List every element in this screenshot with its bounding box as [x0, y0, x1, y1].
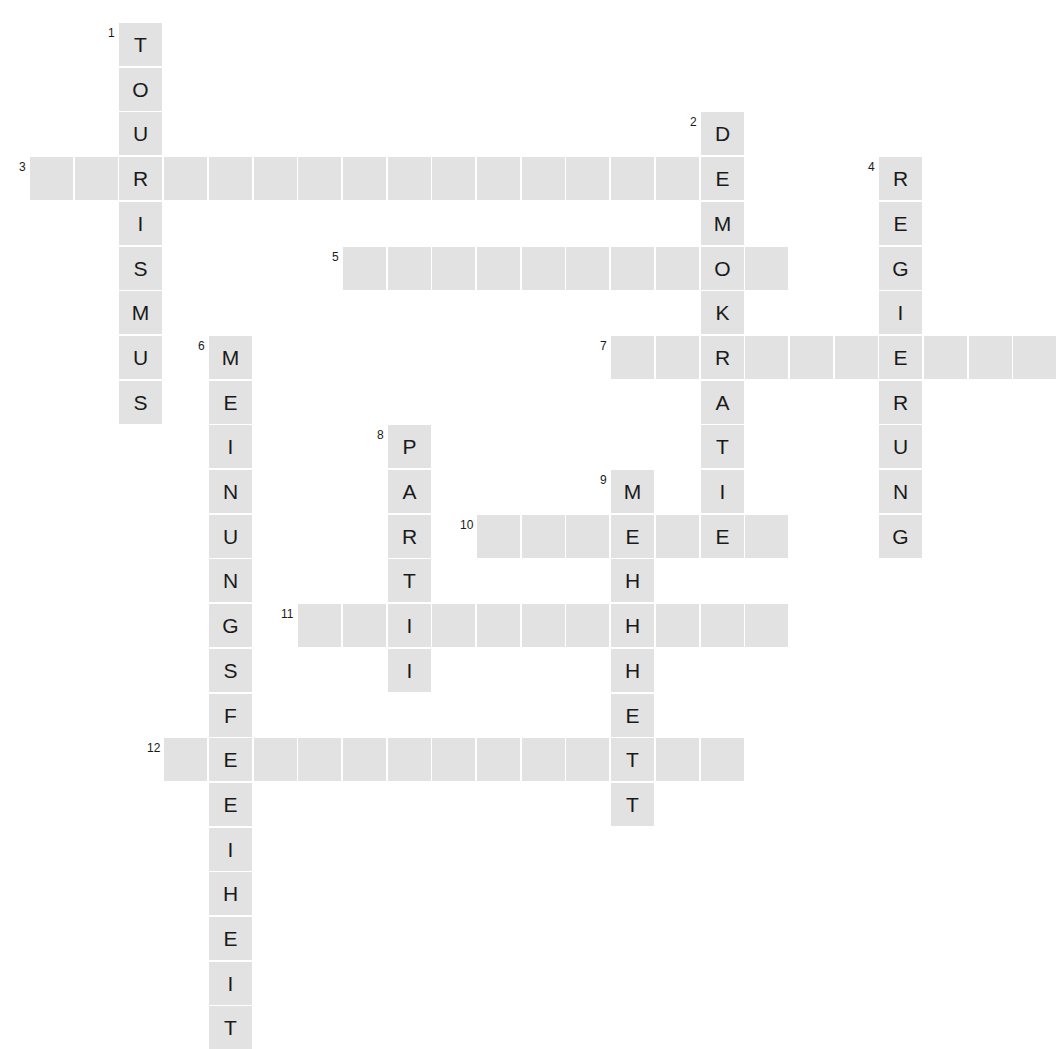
crossword-cell-r5-c10[interactable] [477, 247, 520, 290]
crossword-cell-r6-c15[interactable]: K [701, 291, 744, 334]
crossword-cell-r5-c19[interactable]: G [879, 247, 922, 290]
crossword-cell-r3-c4[interactable] [209, 157, 252, 200]
crossword-cell-r8-c19[interactable]: R [879, 381, 922, 424]
crossword-cell-r5-c15[interactable]: O [701, 247, 744, 290]
crossword-cell-r16-c11[interactable] [522, 738, 565, 781]
crossword-cell-r16-c8[interactable] [388, 738, 431, 781]
crossword-cell-r3-c3[interactable] [164, 157, 207, 200]
crossword-cell-r10-c19[interactable]: N [879, 470, 922, 513]
crossword-cell-r13-c16[interactable] [745, 604, 788, 647]
crossword-cell-r7-c20[interactable] [924, 336, 967, 379]
crossword-cell-r11-c16[interactable] [745, 515, 788, 558]
crossword-cell-r3-c14[interactable] [656, 157, 699, 200]
crossword-cell-r4-c19[interactable]: E [879, 202, 922, 245]
crossword-cell-r11-c14[interactable] [656, 515, 699, 558]
crossword-cell-r7-c18[interactable] [835, 336, 878, 379]
crossword-cell-r3-c1[interactable] [75, 157, 118, 200]
crossword-cell-r9-c15[interactable]: T [701, 425, 744, 468]
crossword-cell-r14-c13[interactable]: H [611, 649, 654, 692]
crossword-cell-r4-c15[interactable]: M [701, 202, 744, 245]
crossword-cell-r11-c19[interactable]: G [879, 515, 922, 558]
crossword-cell-r13-c10[interactable] [477, 604, 520, 647]
crossword-cell-r11-c12[interactable] [566, 515, 609, 558]
crossword-cell-r5-c11[interactable] [522, 247, 565, 290]
crossword-cell-r13-c9[interactable] [432, 604, 475, 647]
crossword-cell-r3-c15[interactable]: E [701, 157, 744, 200]
crossword-cell-r13-c15[interactable] [701, 604, 744, 647]
crossword-cell-r10-c8[interactable]: A [388, 470, 431, 513]
crossword-cell-r11-c4[interactable]: U [209, 515, 252, 558]
crossword-cell-r3-c12[interactable] [566, 157, 609, 200]
crossword-cell-r8-c2[interactable]: S [119, 381, 162, 424]
crossword-cell-r1-c2[interactable]: O [119, 68, 162, 111]
crossword-cell-r16-c9[interactable] [432, 738, 475, 781]
crossword-cell-r14-c8[interactable]: I [388, 649, 431, 692]
crossword-cell-r13-c14[interactable] [656, 604, 699, 647]
crossword-cell-r3-c6[interactable] [298, 157, 341, 200]
crossword-cell-r21-c4[interactable]: I [209, 962, 252, 1005]
crossword-cell-r13-c6[interactable] [298, 604, 341, 647]
crossword-cell-r7-c13[interactable] [611, 336, 654, 379]
crossword-cell-r3-c0[interactable] [30, 157, 73, 200]
crossword-cell-r11-c10[interactable] [477, 515, 520, 558]
crossword-cell-r7-c15[interactable]: R [701, 336, 744, 379]
crossword-cell-r16-c10[interactable] [477, 738, 520, 781]
crossword-cell-r8-c4[interactable]: E [209, 381, 252, 424]
crossword-cell-r6-c19[interactable]: I [879, 291, 922, 334]
crossword-cell-r5-c9[interactable] [432, 247, 475, 290]
crossword-cell-r7-c17[interactable] [790, 336, 833, 379]
crossword-cell-r9-c8[interactable]: P [388, 425, 431, 468]
crossword-cell-r7-c16[interactable] [745, 336, 788, 379]
crossword-cell-r3-c11[interactable] [522, 157, 565, 200]
crossword-cell-r12-c13[interactable]: H [611, 559, 654, 602]
crossword-cell-r15-c4[interactable]: F [209, 694, 252, 737]
crossword-cell-r13-c4[interactable]: G [209, 604, 252, 647]
crossword-cell-r11-c8[interactable]: R [388, 515, 431, 558]
crossword-cell-r3-c19[interactable]: R [879, 157, 922, 200]
crossword-cell-r9-c19[interactable]: U [879, 425, 922, 468]
crossword-cell-r3-c2[interactable]: R [119, 157, 162, 200]
crossword-cell-r16-c12[interactable] [566, 738, 609, 781]
crossword-cell-r11-c13[interactable]: E [611, 515, 654, 558]
crossword-cell-r11-c15[interactable]: E [701, 515, 744, 558]
crossword-cell-r16-c6[interactable] [298, 738, 341, 781]
crossword-cell-r10-c15[interactable]: I [701, 470, 744, 513]
crossword-cell-r7-c21[interactable] [969, 336, 1012, 379]
crossword-cell-r13-c12[interactable] [566, 604, 609, 647]
crossword-cell-r5-c8[interactable] [388, 247, 431, 290]
crossword-cell-r16-c13[interactable]: T [611, 738, 654, 781]
crossword-cell-r16-c4[interactable]: E [209, 738, 252, 781]
crossword-cell-r13-c7[interactable] [343, 604, 386, 647]
crossword-cell-r13-c11[interactable] [522, 604, 565, 647]
crossword-cell-r6-c2[interactable]: M [119, 291, 162, 334]
crossword-cell-r14-c4[interactable]: S [209, 649, 252, 692]
crossword-cell-r7-c2[interactable]: U [119, 336, 162, 379]
crossword-cell-r17-c13[interactable]: T [611, 783, 654, 826]
crossword-cell-r3-c10[interactable] [477, 157, 520, 200]
crossword-cell-r4-c2[interactable]: I [119, 202, 162, 245]
crossword-cell-r16-c3[interactable] [164, 738, 207, 781]
crossword-cell-r5-c13[interactable] [611, 247, 654, 290]
crossword-cell-r3-c8[interactable] [388, 157, 431, 200]
crossword-cell-r16-c5[interactable] [254, 738, 297, 781]
crossword-cell-r5-c16[interactable] [745, 247, 788, 290]
crossword-cell-r12-c4[interactable]: N [209, 559, 252, 602]
crossword-cell-r2-c15[interactable]: D [701, 112, 744, 155]
crossword-cell-r3-c13[interactable] [611, 157, 654, 200]
crossword-cell-r5-c12[interactable] [566, 247, 609, 290]
crossword-cell-r3-c9[interactable] [432, 157, 475, 200]
crossword-cell-r5-c14[interactable] [656, 247, 699, 290]
crossword-cell-r10-c4[interactable]: N [209, 470, 252, 513]
crossword-cell-r7-c22[interactable] [1013, 336, 1056, 379]
crossword-cell-r13-c13[interactable]: H [611, 604, 654, 647]
crossword-cell-r0-c2[interactable]: T [119, 23, 162, 66]
crossword-cell-r19-c4[interactable]: H [209, 872, 252, 915]
crossword-cell-r7-c14[interactable] [656, 336, 699, 379]
crossword-cell-r16-c14[interactable] [656, 738, 699, 781]
crossword-cell-r9-c4[interactable]: I [209, 425, 252, 468]
crossword-cell-r12-c8[interactable]: T [388, 559, 431, 602]
crossword-cell-r11-c11[interactable] [522, 515, 565, 558]
crossword-cell-r22-c4[interactable]: T [209, 1006, 252, 1049]
crossword-cell-r15-c13[interactable]: E [611, 694, 654, 737]
crossword-cell-r16-c7[interactable] [343, 738, 386, 781]
